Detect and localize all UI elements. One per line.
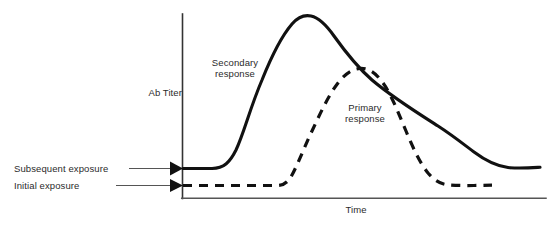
x-axis-label: Time [330,204,382,215]
primary-response-curve [183,68,492,185]
y-axis-label: Ab Titer [138,87,182,98]
antibody-response-figure: Ab Titer Secondary response Primary resp… [0,0,552,226]
secondary-response-label-line1: Secondary [198,57,272,68]
secondary-response-label: Secondary response [198,57,272,79]
exposure-annotation-group [116,162,183,193]
initial-exposure-label: Initial exposure [14,180,126,191]
subsequent-exposure-arrowhead [170,162,183,176]
primary-response-label-line1: Primary [330,102,400,113]
initial-exposure-arrowhead [170,179,183,192]
primary-response-label-line2: response [330,113,400,124]
primary-response-label: Primary response [330,102,400,124]
secondary-response-label-line2: response [198,68,272,79]
chart-canvas [0,0,552,226]
secondary-response-curve [183,16,540,169]
subsequent-exposure-label: Subsequent exposure [14,163,126,174]
